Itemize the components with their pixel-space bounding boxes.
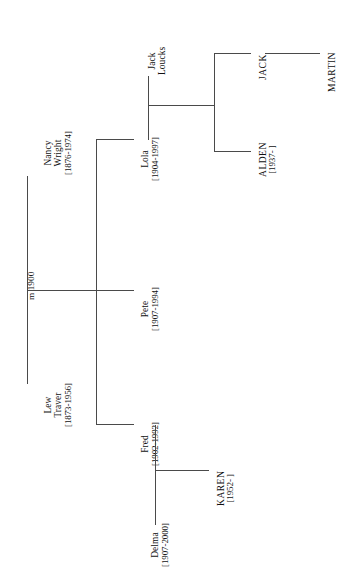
person-martin: MARTIN: [327, 52, 337, 92]
person-jack: JACK: [258, 54, 268, 80]
person-name-line1: JACK: [258, 54, 268, 80]
connector-lola-jack-marriage: [148, 76, 149, 140]
connector-children-bus: [96, 139, 97, 425]
connector-bus-to-alden: [214, 151, 251, 152]
connector-bus-to-pete: [96, 290, 134, 291]
person-name-line2: Loucks: [158, 47, 168, 75]
person-alden: ALDEN [1937- ]: [258, 142, 278, 177]
person-dates: [1876-1974]: [64, 131, 74, 175]
connector-lola-jack-to-children: [148, 105, 214, 106]
person-dates: [1907-2000]: [161, 523, 171, 567]
person-lew-traver: Lew Traver [1873-1956]: [44, 383, 73, 427]
person-dates: [1952- ]: [226, 471, 236, 506]
connector-loucks-children-bus: [214, 53, 215, 152]
person-nancy-wright: Nancy Wright [1876-1974]: [44, 131, 73, 175]
person-dates: [1904-1997]: [151, 137, 161, 181]
person-delma: Delma [1907-2000]: [151, 523, 171, 567]
family-tree-diagram: m 1900 Nancy Wright [1876-1974] Lew Trav…: [0, 0, 352, 588]
marriage-label: m 1900: [26, 272, 36, 300]
person-name-line1: MARTIN: [327, 52, 337, 92]
connector-fred-delma-to-karen: [155, 470, 209, 471]
person-pete: Pete [1907-1994]: [141, 287, 161, 331]
connector-marriage-to-children: [27, 290, 96, 291]
connector-bus-to-jack: [214, 53, 251, 54]
connector-jack-to-martin: [265, 53, 320, 54]
person-dates: [1873-1956]: [64, 383, 74, 427]
person-jack-loucks: Jack Loucks: [148, 47, 168, 75]
connector-fred-delma-marriage: [155, 425, 156, 525]
person-dates: [1907-1994]: [151, 287, 161, 331]
person-lola: Lola [1904-1997]: [141, 137, 161, 181]
connector-bus-to-fred: [96, 424, 134, 425]
person-fred: Fred [1902-1992]: [141, 422, 161, 466]
person-dates: [1937- ]: [268, 142, 278, 177]
connector-bus-to-lola: [96, 139, 134, 140]
person-karen: KAREN [1952- ]: [216, 471, 236, 506]
